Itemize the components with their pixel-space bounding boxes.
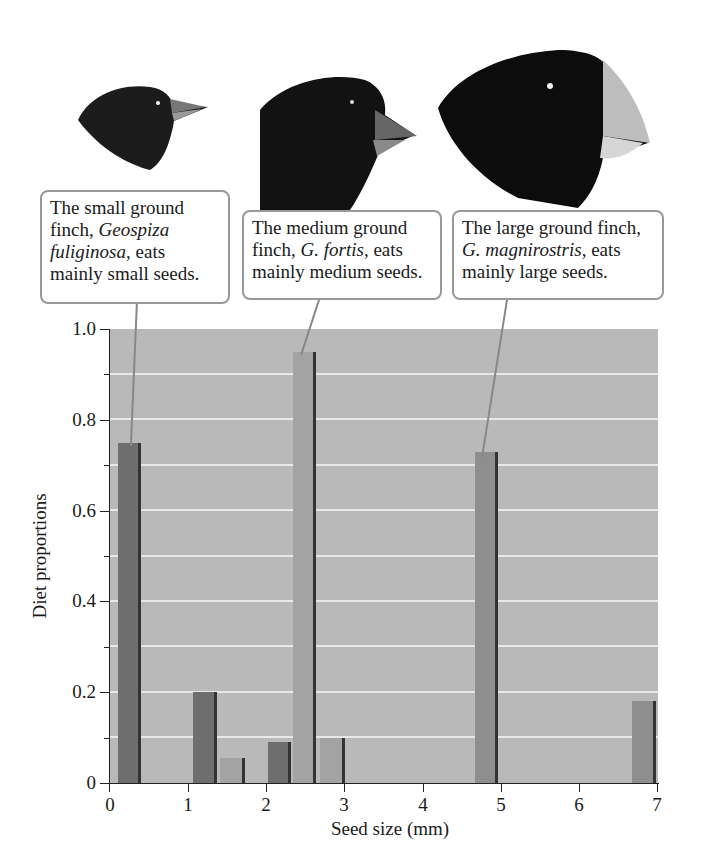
y-tick bbox=[100, 692, 109, 693]
x-tick-label: 0 bbox=[95, 794, 125, 816]
callout-text: finch, G. fortis, eats bbox=[252, 239, 432, 261]
x-tick bbox=[657, 784, 658, 792]
gridline bbox=[110, 555, 658, 557]
callout-text: The medium ground bbox=[252, 217, 432, 239]
x-tick bbox=[501, 784, 502, 792]
bar-fortis-2.5mm bbox=[293, 352, 316, 783]
y-tick bbox=[100, 329, 109, 330]
x-tick-label: 1 bbox=[173, 794, 203, 816]
small-ground-finch-illustration bbox=[70, 75, 210, 175]
y-tick bbox=[100, 601, 109, 602]
bar-fuliginosa-2.15mm bbox=[268, 742, 291, 783]
large-ground-finch-illustration bbox=[438, 48, 653, 208]
y-tick-label: 0.2 bbox=[60, 682, 96, 702]
y-tick bbox=[100, 420, 109, 421]
y-tick-label: 0.8 bbox=[60, 410, 96, 430]
plot-area bbox=[110, 329, 658, 783]
medium-ground-finch-illustration bbox=[255, 70, 425, 210]
y-tick-label: 1.0 bbox=[60, 319, 96, 339]
gridline bbox=[110, 373, 658, 375]
x-tick-label: 2 bbox=[251, 794, 281, 816]
x-tick bbox=[423, 784, 424, 792]
callout-large-ground-finch: The large ground finch, G. magnirostris,… bbox=[452, 210, 664, 300]
callout-text: mainly large seeds. bbox=[462, 261, 654, 283]
y-tick-label: 0.4 bbox=[60, 591, 96, 611]
bar-fuliginosa-1.2mm bbox=[193, 692, 217, 783]
y-tick bbox=[100, 783, 109, 784]
y-axis-line bbox=[109, 329, 110, 784]
bar-fuliginosa-0.25mm bbox=[118, 443, 141, 783]
callout-text: finch, Geospiza bbox=[50, 219, 220, 241]
y-axis-title: Diet proportions bbox=[29, 486, 51, 626]
gridline bbox=[110, 464, 658, 466]
callout-text: The small ground bbox=[50, 197, 220, 219]
callout-text: mainly small seeds. bbox=[50, 263, 220, 285]
x-tick bbox=[579, 784, 580, 792]
gridline bbox=[110, 509, 658, 511]
callout-text: The large ground finch, bbox=[462, 217, 654, 239]
bar-fortis-1.6mm bbox=[220, 758, 245, 783]
callout-medium-ground-finch: The medium ground finch, G. fortis, eats… bbox=[242, 210, 442, 300]
callout-small-ground-finch: The small ground finch, Geospiza fuligin… bbox=[40, 190, 230, 304]
callout-text: mainly medium seeds. bbox=[252, 261, 432, 283]
y-tick bbox=[100, 511, 109, 512]
x-tick-label: 6 bbox=[564, 794, 594, 816]
x-tick bbox=[188, 784, 189, 792]
y-tick bbox=[104, 738, 109, 739]
y-tick bbox=[104, 647, 109, 648]
y-tick bbox=[104, 374, 109, 375]
x-axis-title: Seed size (mm) bbox=[310, 818, 470, 840]
gridline bbox=[110, 645, 658, 647]
gridline bbox=[110, 418, 658, 420]
callout-text: G. magnirostris, eats bbox=[462, 239, 654, 261]
y-tick bbox=[104, 556, 109, 557]
x-axis-line bbox=[109, 783, 659, 784]
y-tick bbox=[104, 465, 109, 466]
bar-magnirostris-6.75mm bbox=[632, 701, 656, 783]
bar-fortis-2.85mm bbox=[320, 738, 345, 783]
x-tick-label: 5 bbox=[486, 794, 516, 816]
x-tick-label: 4 bbox=[408, 794, 438, 816]
x-tick-label: 3 bbox=[329, 794, 359, 816]
bar-magnirostris-4.75mm bbox=[475, 452, 498, 783]
x-tick bbox=[109, 784, 110, 792]
y-tick-label: 0 bbox=[60, 773, 96, 793]
x-tick bbox=[266, 784, 267, 792]
x-tick-label: 7 bbox=[642, 794, 672, 816]
callout-text: fuliginosa, eats bbox=[50, 241, 220, 263]
y-tick-label: 0.6 bbox=[60, 501, 96, 521]
x-tick bbox=[344, 784, 345, 792]
gridline bbox=[110, 600, 658, 602]
